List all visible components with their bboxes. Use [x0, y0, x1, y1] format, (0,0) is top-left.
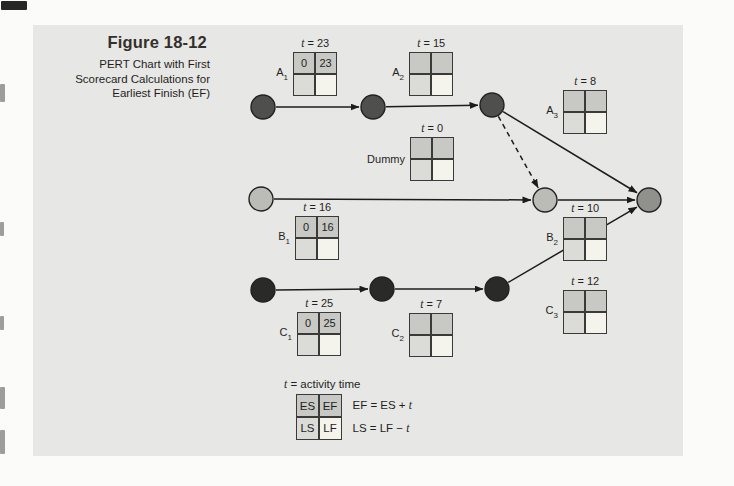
activity-time-definition-text: = activity time [287, 378, 360, 390]
dummy-dependency-arrow-end-a-to-merge [498, 116, 538, 187]
ls-key-cell: LS [297, 418, 318, 439]
scorecard-key-grid: ES EF LS LF [296, 394, 342, 440]
lf-key-cell: LF [320, 418, 341, 439]
activity-time-definition: t = activity time [284, 377, 412, 392]
ef-formula: EF = ES + t [353, 394, 412, 417]
event-node-mid-c [370, 277, 394, 301]
dependency-arrow-end-c-to-finish [508, 207, 637, 282]
event-node-end-c [485, 277, 509, 301]
event-node-end-a [480, 93, 504, 117]
event-node-finish [637, 188, 661, 212]
legend-formulas: EF = ES + t LS = LF − t [353, 394, 412, 440]
dependency-arrow-end-a-to-finish [503, 112, 637, 193]
ef-key-cell: EF [320, 395, 341, 416]
ls-formula: LS = LF − t [353, 417, 412, 440]
dependency-arrow-start-b-to-merge [274, 199, 531, 200]
t-symbol: t [409, 399, 412, 411]
event-node-start-c [251, 278, 275, 302]
event-node-mid-a [361, 95, 385, 119]
dependency-arrow-mid-a-to-end-a [386, 105, 478, 107]
t-symbol: t [406, 422, 409, 434]
event-node-start-b [249, 187, 273, 211]
es-key-cell: ES [297, 395, 318, 416]
event-node-merge [533, 188, 557, 212]
dependency-arrow-start-c-to-mid-c [276, 289, 368, 290]
event-node-start-a [251, 95, 275, 119]
scorecard-legend: t = activity time ES EF LS LF EF = ES + … [284, 377, 412, 440]
